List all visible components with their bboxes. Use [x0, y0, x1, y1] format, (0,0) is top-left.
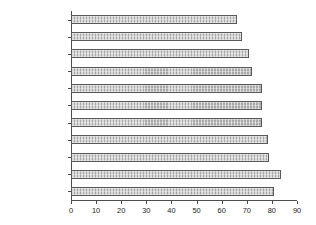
x-axis-tick — [247, 201, 248, 204]
bar — [71, 170, 281, 179]
x-axis-tick-label: 90 — [282, 206, 312, 215]
bar — [71, 49, 249, 58]
x-axis-tick — [121, 201, 122, 204]
x-axis-tick — [297, 201, 298, 204]
x-axis-tick — [197, 201, 198, 204]
x-axis-tick — [96, 201, 97, 204]
bar — [71, 187, 274, 196]
bar-chart: Inner LondonMain MetsLarge CitiesOther M… — [0, 0, 316, 225]
bar — [71, 153, 269, 162]
x-axis-tick — [171, 201, 172, 204]
chart-row: Large Cities — [71, 45, 297, 62]
chart-row: Remote rural — [71, 183, 297, 200]
bar — [71, 67, 252, 76]
chart-row: Mixed urban/rural — [71, 166, 297, 183]
chart-row: New Towns — [71, 131, 297, 148]
chart-row: Outer London — [71, 97, 297, 114]
bar — [71, 118, 262, 127]
chart-row: Small Cities — [71, 114, 297, 131]
x-axis-tick — [222, 201, 223, 204]
plot-area: Inner LondonMain MetsLarge CitiesOther M… — [71, 11, 297, 200]
chart-row: Inner London — [71, 11, 297, 28]
bar — [71, 135, 268, 144]
x-axis-line — [71, 200, 297, 201]
chart-row: Main Mets — [71, 28, 297, 45]
x-axis-tick — [146, 201, 147, 204]
x-axis-tick — [71, 201, 72, 204]
bar — [71, 84, 262, 93]
x-axis-tick — [272, 201, 273, 204]
chart-row: Resort/retirement — [71, 148, 297, 165]
bar — [71, 32, 242, 41]
bar — [71, 15, 237, 24]
chart-row: Industrial — [71, 80, 297, 97]
chart-row: Other Mets — [71, 63, 297, 80]
bar — [71, 101, 262, 110]
